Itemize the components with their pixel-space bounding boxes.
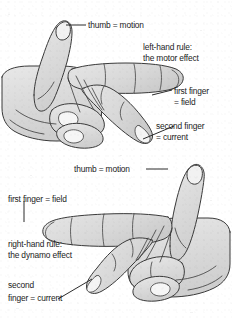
left-little-nail	[64, 130, 84, 143]
label-right-hand-rule-line2: the dynamo effect	[8, 250, 72, 261]
label-second-finger-bottom-line1: second	[8, 280, 34, 291]
label-right-hand-rule-line1: right-hand rule:	[8, 239, 62, 250]
right-thumb-nail	[187, 165, 202, 184]
label-left-hand-rule-line1: left-hand rule:	[143, 42, 192, 53]
label-second-finger-bottom-line2: finger = current	[8, 293, 62, 304]
label-second-finger-top-line1: second finger	[156, 121, 204, 132]
label-thumb-motion-bottom: thumb = motion	[74, 164, 130, 175]
hand-rules-figure	[0, 0, 232, 318]
label-thumb-motion-top: thumb = motion	[88, 20, 144, 31]
label-second-finger-top-line2: = current	[156, 132, 188, 143]
label-first-finger-top-line1: first finger	[174, 86, 209, 97]
label-left-hand-rule-line2: the motor effect	[143, 53, 199, 64]
label-first-finger-top-line2: = field	[174, 97, 196, 108]
label-first-finger-bottom: first finger = field	[8, 194, 67, 205]
right-little-nail	[151, 283, 171, 296]
